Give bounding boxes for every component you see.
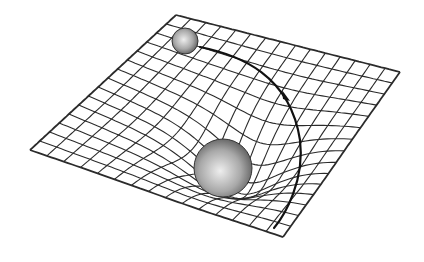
grid-border [30,15,176,150]
spacetime-grid [30,15,400,237]
small-body-sphere [172,28,198,54]
spacetime-diagram [0,0,424,262]
grid-line [266,68,385,231]
diagram-canvas [0,0,424,262]
grid-line [166,24,392,83]
trajectory-path [200,47,301,228]
trajectory-arrow-icon [282,90,290,101]
large-mass-sphere [194,139,252,197]
grid-line [249,64,370,225]
